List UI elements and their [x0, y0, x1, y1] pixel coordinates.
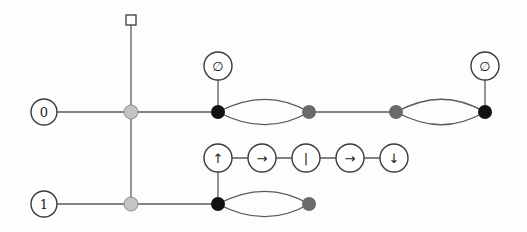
wires — [57, 25, 485, 217]
light-spider-row1 — [124, 197, 138, 211]
input-1-label: 1 — [40, 197, 48, 212]
arrow-right-icon: → — [345, 151, 356, 166]
arrow-down-icon: ↓ — [389, 151, 400, 166]
chain-node-right-2: → — [336, 144, 364, 172]
dark-spider-row0-b — [389, 105, 403, 119]
empty-node-1: ∅ — [204, 52, 232, 80]
wire-row0-arc-top-2 — [396, 99, 485, 112]
dark-spider-row0-a — [302, 105, 316, 119]
arrow-right-icon: → — [257, 151, 268, 166]
input-0-label: 0 — [40, 105, 48, 120]
wire-row0-arc-bot-1 — [218, 112, 309, 125]
wire-row0-arc-top-1 — [218, 99, 309, 112]
wire-row1-arc-bot — [218, 204, 309, 217]
square-node — [126, 15, 136, 25]
vertical-bar-icon: | — [304, 151, 308, 166]
chain-node-up: ↑ — [204, 144, 232, 172]
empty-node-2: ∅ — [471, 52, 499, 80]
black-spider-row0-a — [211, 105, 225, 119]
wire-row0-arc-bot-2 — [396, 112, 485, 125]
empty-set-icon: ∅ — [212, 59, 223, 74]
chain-node-down: ↓ — [380, 144, 408, 172]
diagram-canvas: 0 1 ∅ ∅ ↑ → | → ↓ — [0, 0, 527, 232]
black-spider-row0-b — [478, 105, 492, 119]
chain-node-right-1: → — [248, 144, 276, 172]
input-0: 0 — [31, 99, 57, 125]
arrow-up-icon: ↑ — [213, 151, 224, 166]
empty-set-icon: ∅ — [479, 59, 490, 74]
light-spider-row0 — [124, 105, 138, 119]
dark-spider-row1 — [302, 197, 316, 211]
black-spider-row1 — [211, 197, 225, 211]
chain-node-bar: | — [292, 144, 320, 172]
wire-row1-arc-top — [218, 191, 309, 204]
input-1: 1 — [31, 191, 57, 217]
